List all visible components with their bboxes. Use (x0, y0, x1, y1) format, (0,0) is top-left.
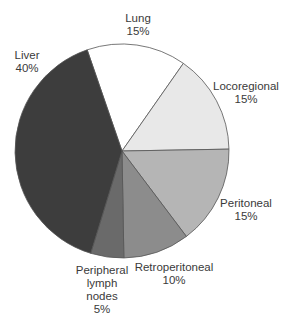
label-peripheral-line3: nodes (72, 290, 132, 303)
label-peritoneal-name: Peritoneal (216, 197, 276, 210)
label-peritoneal: Peritoneal 15% (216, 197, 276, 223)
label-retroperitoneal-pct: 10% (134, 274, 214, 287)
label-liver-name: Liver (10, 49, 44, 62)
label-locoregional-pct: 15% (208, 93, 284, 106)
label-locoregional: Locoregional 15% (208, 80, 284, 106)
label-peripheral-line1: Peripheral (72, 264, 132, 277)
label-lung-pct: 15% (118, 25, 158, 38)
label-lung: Lung 15% (118, 12, 158, 38)
label-peripheral-line2: lymph (72, 277, 132, 290)
label-locoregional-name: Locoregional (208, 80, 284, 93)
label-liver: Liver 40% (10, 49, 44, 75)
label-peritoneal-pct: 15% (216, 210, 276, 223)
label-peripheral-pct: 5% (72, 303, 132, 316)
label-liver-pct: 40% (10, 62, 44, 75)
label-lung-name: Lung (118, 12, 158, 25)
label-retroperitoneal-name: Retroperitoneal (134, 261, 214, 274)
label-peripheral: Peripheral lymph nodes 5% (72, 264, 132, 316)
label-retroperitoneal: Retroperitoneal 10% (134, 261, 214, 287)
